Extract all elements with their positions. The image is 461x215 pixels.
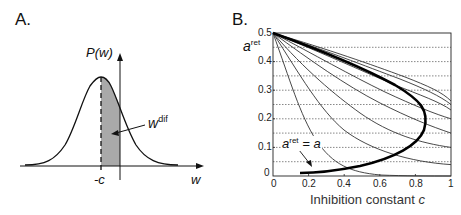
y-tick-0.4: 0.4 [258,55,272,66]
y-tick-0: 0 [264,167,270,178]
x-axis-label-inhibition: Inhibition constant c [310,192,425,207]
panel-a-plot [0,0,461,215]
x-axis-label-var: c [418,192,425,207]
x-tick-0.2: 0.2 [302,178,316,189]
y-axis-label-aret: aret [243,38,260,54]
panel-b-label: B. [232,10,248,30]
x-tick-0.6: 0.6 [373,178,387,189]
annotation-aret-rest: = a [299,136,321,151]
x-tick-0.8: 0.8 [409,178,423,189]
x-tick-0.4: 0.4 [337,178,351,189]
annotation-wdif: wdif [148,114,168,131]
x-axis-label-w: w [191,172,200,187]
shaded-region [101,77,120,166]
y-tick-0.3: 0.3 [258,84,272,95]
x-axis-arrow-icon [196,163,204,169]
x-tick-1: 1 [448,178,454,189]
annotation-wdif-base: w [148,115,158,131]
y-axis-label-sup: ret [251,38,260,47]
y-axis-arrow-icon [117,53,123,61]
annotation-aret-equals-a: aret = a [281,136,322,151]
x-axis-label-text: Inhibition constant [310,192,418,207]
x-tick-0: 0 [271,178,277,189]
y-tick-0.1: 0.1 [258,141,272,152]
tick-label-minus-c: -c [94,172,105,187]
annotation-aret-sup: ret [289,136,298,145]
annotation-wdif-sup: dif [158,114,168,124]
bold-curve-aret-equals-a [273,33,426,173]
y-axis-label-base: a [243,38,251,54]
y-tick-0.5: 0.5 [258,27,272,38]
y-tick-0.2: 0.2 [258,112,272,123]
aret-arrow-icon [306,160,312,167]
y-axis-label-pw: P(w) [86,45,113,60]
